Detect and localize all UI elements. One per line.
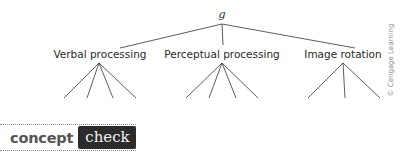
factor-verbal-processing: Verbal processing — [53, 48, 146, 60]
factor-perceptual-processing: Perceptual processing — [164, 48, 279, 60]
concept-check-badge: concept check — [0, 124, 136, 151]
g-factor-label: g — [218, 8, 225, 21]
copyright-credit: © Cengage Learning — [387, 24, 395, 97]
concept-word: concept — [0, 130, 78, 146]
hierarchical-intelligence-diagram: g Verbal processing Perceptual processin… — [0, 0, 408, 110]
check-word: check — [78, 126, 135, 149]
factor-image-rotation: Image rotation — [304, 48, 381, 60]
